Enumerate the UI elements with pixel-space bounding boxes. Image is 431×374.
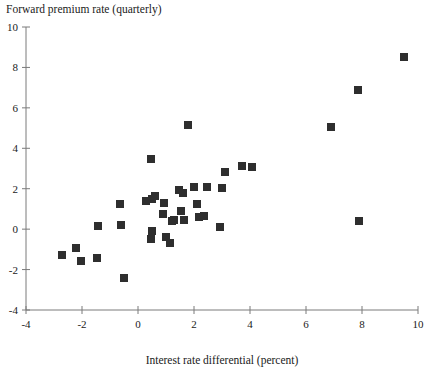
data-point [355, 217, 363, 225]
y-tick-label: 0 [13, 223, 19, 235]
data-point [120, 274, 128, 282]
data-point [117, 221, 125, 229]
data-point [354, 86, 362, 94]
y-tick-label: -4 [9, 304, 18, 316]
x-tick-label: -2 [77, 318, 86, 330]
data-point [175, 186, 183, 194]
data-point [72, 244, 80, 252]
data-point [166, 239, 174, 247]
plot-area: -4-20246810-4-20246810 [0, 0, 431, 374]
y-tick-label: 4 [13, 142, 19, 154]
scatter-chart: Forward premium rate (quarterly) -4-2024… [0, 0, 431, 374]
y-tick-label: -2 [9, 264, 18, 276]
data-point [180, 216, 188, 224]
x-tick-label: 4 [247, 318, 253, 330]
x-axis-label: Interest rate differential (percent) [146, 353, 299, 367]
data-point [218, 184, 226, 192]
data-point [148, 227, 156, 235]
y-tick-label: 8 [13, 61, 19, 73]
data-point [177, 207, 185, 215]
data-point [160, 199, 168, 207]
data-point [151, 192, 159, 200]
y-tick-label: 2 [13, 183, 19, 195]
data-point [77, 257, 85, 265]
data-point [203, 183, 211, 191]
y-tick-label: 6 [13, 102, 19, 114]
data-point [116, 200, 124, 208]
data-point [190, 183, 198, 191]
data-point [400, 53, 408, 61]
data-point [200, 212, 208, 220]
data-point [184, 121, 192, 129]
x-tick-label: 8 [359, 318, 365, 330]
data-point [147, 155, 155, 163]
x-tick-label: 0 [135, 318, 141, 330]
data-point [93, 254, 101, 262]
y-tick-label: 10 [7, 21, 18, 33]
data-point [159, 210, 167, 218]
data-point [327, 123, 335, 131]
x-tick-label: 10 [413, 318, 424, 330]
x-tick-label: 6 [303, 318, 309, 330]
data-point [248, 163, 256, 171]
data-point [193, 200, 201, 208]
data-point [216, 223, 224, 231]
data-point [94, 222, 102, 230]
data-point [147, 235, 155, 243]
axes-svg [0, 0, 431, 374]
data-point [58, 251, 66, 259]
tick-marks [22, 27, 418, 314]
data-point [238, 162, 246, 170]
data-point [221, 168, 229, 176]
x-tick-label: -4 [21, 318, 30, 330]
data-point [170, 216, 178, 224]
x-tick-label: 2 [191, 318, 197, 330]
